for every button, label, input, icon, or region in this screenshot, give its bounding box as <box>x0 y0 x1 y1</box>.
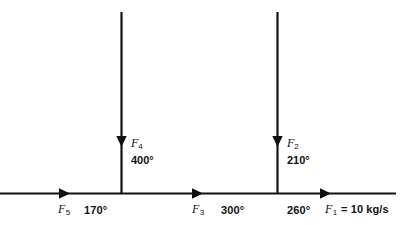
label-f1-value: = 10 kg/s <box>341 203 389 215</box>
label-f1-symbol: F1 <box>325 202 337 216</box>
label-f4-angle: 400° <box>131 153 154 167</box>
arrowhead-f3-icon <box>192 188 203 199</box>
arrowhead-f1-icon <box>320 188 331 199</box>
arrowhead-f5-icon <box>59 188 70 199</box>
label-f2-symbol: F2 <box>287 136 310 152</box>
diagram-canvas <box>0 0 401 225</box>
label-f3-angle: 300° <box>221 204 244 217</box>
label-f1-angle: 260° <box>287 204 310 217</box>
arrowhead-f4-icon <box>116 136 126 147</box>
label-f1: F1= 10 kg/s <box>325 203 389 217</box>
label-f4: F4 400° <box>131 136 154 167</box>
label-f4-symbol: F4 <box>131 136 154 152</box>
label-f3-symbol: F3 <box>192 203 204 217</box>
label-f2: F2 210° <box>287 136 310 167</box>
arrowhead-f2-icon <box>272 136 282 147</box>
label-f5-symbol: F5 <box>58 203 70 217</box>
flow-diagram-figure: F4 400° F2 210° F5 170° F3 300° 260° F1=… <box>0 0 401 225</box>
label-f5-angle: 170° <box>84 204 107 217</box>
label-f2-angle: 210° <box>287 153 310 167</box>
